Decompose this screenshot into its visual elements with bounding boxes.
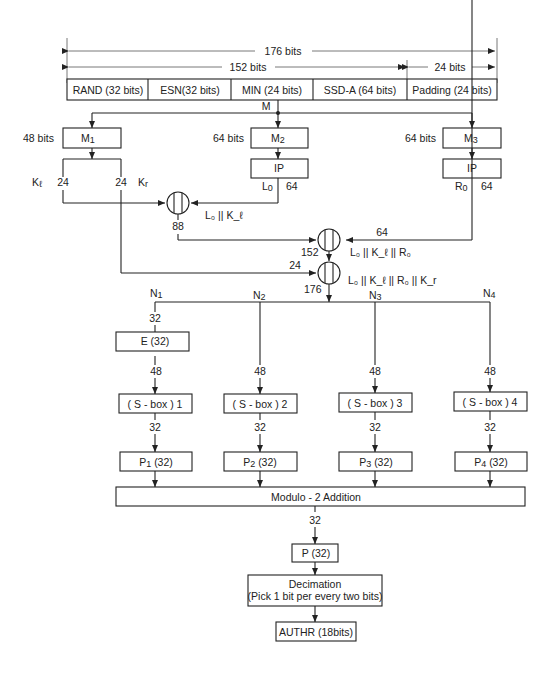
kr-in-bits: 24 <box>289 259 301 271</box>
m1-bits: 48 bits <box>23 132 54 144</box>
svg-text:( S - box ) 1: ( S - box ) 1 <box>128 398 183 410</box>
final-permutation: P (32) <box>292 544 338 575</box>
concat-node-2: L₀ || K_ℓ || R₀ 152 <box>301 229 411 261</box>
field-min: MIN (24 bits) <box>242 84 302 96</box>
svg-text:32: 32 <box>149 312 161 324</box>
round-3: 48 ( S - box ) 3 32 P3 (32) <box>339 302 412 487</box>
m3-branch: 64 bits M3 IP R0 64 64 <box>346 0 501 240</box>
concat2-out-bits: 152 <box>301 246 319 258</box>
svg-text:P4 (32): P4 (32) <box>474 456 508 469</box>
decimation: Decimation (Pick 1 bit per every two bit… <box>248 575 383 622</box>
svg-text:P (32): P (32) <box>302 547 330 559</box>
n3-label: N3 <box>369 289 382 302</box>
n-bus: N1 N2 N3 N4 <box>150 287 496 302</box>
svg-text:48: 48 <box>150 365 162 377</box>
r0-label: R0 <box>455 180 468 193</box>
svg-text:32: 32 <box>484 421 496 433</box>
concat-node-3: 24 L₀ || K_ℓ || R₀ || K_r 176 <box>289 259 437 302</box>
concat3-out-bits: 176 <box>304 283 322 295</box>
svg-text:32: 32 <box>309 514 321 526</box>
m-label: M <box>262 100 271 112</box>
concat1-out-bits: 88 <box>172 220 184 232</box>
modulo-2-addition: Modulo - 2 Addition 32 <box>116 487 525 544</box>
kl-bits: 24 <box>57 176 69 188</box>
svg-text:48: 48 <box>484 365 496 377</box>
svg-text:E (32): E (32) <box>141 335 170 347</box>
n2-label: N2 <box>253 289 266 302</box>
round-4: 48 ( S - box ) 4 32 P4 (32) <box>454 302 527 487</box>
svg-text:( S - box ) 3: ( S - box ) 3 <box>348 397 403 409</box>
concat2-label: L₀ || K_ℓ || R₀ <box>350 246 411 258</box>
field-ssd-a: SSD-A (64 bits) <box>324 84 396 96</box>
svg-text:Decimation: Decimation <box>289 578 342 590</box>
round-2: 48 ( S - box ) 2 32 P2 (32) <box>224 302 297 487</box>
field-rand: RAND (32 bits) <box>73 84 144 96</box>
concat3-label: L₀ || K_ℓ || R₀ || K_r <box>348 274 437 286</box>
field-padding: Padding (24 bits) <box>412 84 491 96</box>
m2-branch: 64 bits M2 IP L0 64 <box>191 128 308 203</box>
kr-bits: 24 <box>115 176 127 188</box>
round-1: 32 E (32) 48 ( S - box ) 1 32 P1 (32) <box>116 302 192 487</box>
l0-bits: 64 <box>286 180 298 192</box>
svg-text:48: 48 <box>369 365 381 377</box>
svg-text:32: 32 <box>149 421 161 433</box>
svg-text:48: 48 <box>254 365 266 377</box>
svg-text:AUTHR (18bits): AUTHR (18bits) <box>279 626 353 638</box>
svg-text:( S - box ) 2: ( S - box ) 2 <box>233 398 288 410</box>
r0-in-bits: 64 <box>376 226 388 238</box>
input-field-bar: RAND (32 bits) ESN(32 bits) MIN (24 bits… <box>67 79 497 100</box>
svg-text:(Pick 1 bit per every two bits: (Pick 1 bit per every two bits) <box>248 590 383 602</box>
authr-generation-diagram: 176 bits 152 bits 24 bits RAND (32 bits)… <box>0 0 555 673</box>
m-split: M <box>92 100 472 128</box>
kl-label: Kℓ <box>32 176 43 189</box>
total-bits-label: 176 bits <box>265 45 302 57</box>
svg-text:IP: IP <box>274 162 284 174</box>
field-esn: ESN(32 bits) <box>160 84 220 96</box>
svg-text:Modulo - 2 Addition: Modulo - 2 Addition <box>271 491 361 503</box>
svg-text:P2 (32): P2 (32) <box>243 456 277 469</box>
bit-width-dimensions: 176 bits 152 bits 24 bits <box>67 38 497 83</box>
svg-text:P3 (32): P3 (32) <box>359 456 393 469</box>
m3-bits: 64 bits <box>405 132 436 144</box>
m2-bits: 64 bits <box>213 132 244 144</box>
svg-text:( S - box ) 4: ( S - box ) 4 <box>463 396 518 408</box>
svg-text:P1 (32): P1 (32) <box>139 456 173 469</box>
svg-text:32: 32 <box>369 421 381 433</box>
right-span-label: 24 bits <box>435 61 466 73</box>
kr-label: Kr <box>138 176 148 189</box>
concat-node-1: L₀ || K_ℓ 88 <box>167 192 316 240</box>
left-span-label: 152 bits <box>230 61 267 73</box>
svg-text:32: 32 <box>254 421 266 433</box>
concat1-label: L₀ || K_ℓ <box>205 209 243 221</box>
n4-label: N4 <box>483 287 496 300</box>
authr-output: AUTHR (18bits) <box>276 622 356 641</box>
l0-label: L0 <box>262 180 273 193</box>
r0-bits: 64 <box>481 180 493 192</box>
n1-label: N1 <box>150 287 163 300</box>
